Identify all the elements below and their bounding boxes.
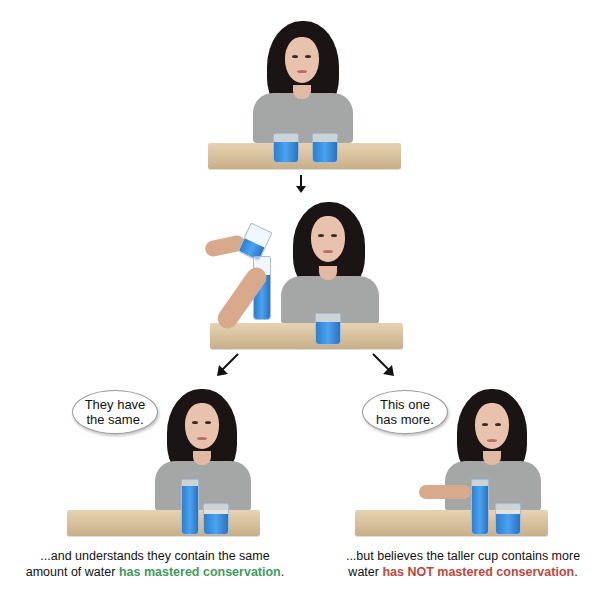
mouth [197,437,207,440]
caption-line-2: water has NOT mastered conservation. [318,564,608,580]
short-glass [203,503,229,535]
arrow-down-right-icon [370,352,396,378]
eye [331,234,337,237]
neck [319,266,337,280]
arrow-down-icon [295,174,307,194]
eye [482,423,488,426]
speech-text: This onehas more. [376,397,434,427]
panel-pouring [205,198,405,353]
face [185,403,219,449]
neck [193,451,211,465]
caption-line-2: amount of water has mastered conservatio… [10,564,300,580]
arrow-down-left-icon [215,352,241,378]
caption-highlight-not-mastered: has NOT mastered conservation [382,565,574,579]
table [210,323,403,349]
eye [305,55,311,58]
girl-figure [247,15,357,145]
caption-highlight-mastered: has mastered conservation [119,565,281,579]
face [311,216,345,262]
table [67,510,260,536]
shirt [253,93,353,143]
girl-figure [277,198,387,328]
pointing-arm [419,485,471,499]
caption-not-mastered: ...but believes the taller cup contains … [318,548,608,580]
girl-figure [155,385,265,515]
speech-bubble-more: This onehas more. [362,390,448,434]
eye [205,421,211,424]
eye [318,234,324,237]
speech-text: They havethe same. [85,397,146,427]
short-glass [495,503,521,535]
panel-initial-equal-glasses [205,15,405,175]
tall-glass [471,479,489,535]
eye [292,55,298,58]
table [208,143,401,169]
caption-line-1: ...and understands they contain the same [10,548,300,564]
face [475,403,509,449]
mouth [323,250,333,253]
short-glass-right [312,133,338,163]
caption-line-1: ...but believes the taller cup contains … [318,548,608,564]
mouth [487,439,497,442]
short-glass [315,313,341,345]
eye [495,423,501,426]
face [285,37,319,83]
tall-glass [181,479,199,535]
speech-bubble-same: They havethe same. [72,390,158,434]
neck [483,451,501,465]
neck [293,85,311,99]
caption-mastered: ...and understands they contain the same… [10,548,300,580]
eye [192,421,198,424]
mouth [297,70,307,73]
short-glass-left [273,133,299,163]
